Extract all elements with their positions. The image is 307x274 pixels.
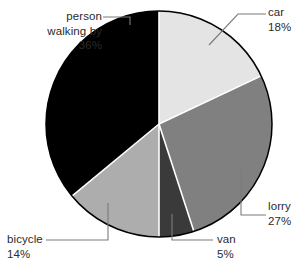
slice-label-van: van 5% (217, 232, 257, 261)
slice-label-lorry: lorry 27% (268, 199, 306, 228)
slice-label-value: 27% (268, 214, 306, 229)
slice-label-value: 18% (268, 20, 304, 35)
slice-label-name: bicycle (7, 232, 69, 247)
slice-label-name: car (268, 5, 304, 20)
slice-label-name-continued: walking by (6, 24, 102, 39)
slice-label-bicycle: bicycle 14% (7, 232, 69, 261)
slice-label-name: van (217, 232, 257, 247)
slice-label-person-walking-by: person walking by 36% (6, 9, 102, 53)
slice-label-name: lorry (268, 199, 306, 214)
slice-label-value: 5% (217, 247, 257, 262)
slice-label-name: person (6, 9, 102, 24)
pie-chart: person walking by 36% car 18% lorry 27% … (0, 0, 307, 274)
slice-label-value: 36% (6, 38, 102, 53)
slice-label-value: 14% (7, 247, 69, 262)
slice-label-car: car 18% (268, 5, 304, 34)
